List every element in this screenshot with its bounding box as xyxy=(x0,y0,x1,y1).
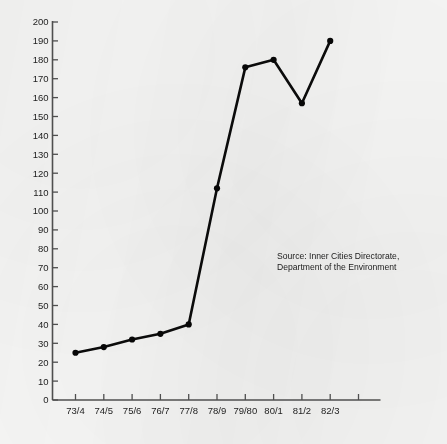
data-point xyxy=(214,185,220,191)
x-axis: 73/474/575/676/777/878/979/8080/181/282/… xyxy=(53,394,381,416)
data-point xyxy=(242,64,248,70)
y-axis-tick-label: 60 xyxy=(38,281,49,292)
x-axis-tick-label: 79/80 xyxy=(233,405,257,416)
y-axis-tick-label: 20 xyxy=(38,357,49,368)
y-axis-tick-label: 40 xyxy=(38,319,49,330)
data-point xyxy=(271,57,277,63)
line-chart: 0102030405060708090100110120130140150160… xyxy=(0,0,447,444)
y-axis-tick-label: 110 xyxy=(33,187,48,198)
y-axis-tick-label: 10 xyxy=(38,376,49,387)
y-axis-tick-label: 160 xyxy=(33,92,49,103)
source-credit-annotation: Source: Inner Cities Directorate, Depart… xyxy=(277,251,399,274)
y-axis-tick-label: 0 xyxy=(43,394,48,405)
data-point xyxy=(186,321,192,327)
data-point xyxy=(129,336,135,342)
y-axis-tick-label: 120 xyxy=(33,168,49,179)
data-point-group xyxy=(72,38,333,356)
y-axis-tick-label: 30 xyxy=(38,338,49,349)
y-axis-tick-label: 70 xyxy=(38,262,49,273)
x-axis-tick-label: 77/8 xyxy=(179,405,198,416)
x-axis-tick-label: 73/4 xyxy=(66,405,85,416)
x-axis-tick-label: 81/2 xyxy=(293,405,312,416)
x-axis-tick-label: 74/5 xyxy=(95,405,114,416)
data-point xyxy=(299,100,305,106)
data-point xyxy=(101,344,107,350)
x-axis-tick-label: 78/9 xyxy=(208,405,227,416)
y-axis-tick-label: 140 xyxy=(33,130,49,141)
x-axis-tick-label: 82/3 xyxy=(321,405,340,416)
y-axis: 0102030405060708090100110120130140150160… xyxy=(33,16,58,405)
chart-canvas: 0102030405060708090100110120130140150160… xyxy=(0,0,447,444)
y-axis-tick-label: 190 xyxy=(33,35,49,46)
y-axis-tick-label: 80 xyxy=(38,243,49,254)
y-axis-tick-label: 170 xyxy=(33,73,49,84)
y-axis-tick-label: 180 xyxy=(33,54,49,65)
x-axis-tick-label: 80/1 xyxy=(264,405,283,416)
y-axis-tick-label: 50 xyxy=(38,300,49,311)
data-point xyxy=(157,331,163,337)
x-axis-tick-label: 76/7 xyxy=(151,405,170,416)
y-axis-tick-label: 200 xyxy=(33,16,49,27)
y-axis-tick-label: 150 xyxy=(33,111,49,122)
data-point xyxy=(72,350,78,356)
data-point xyxy=(327,38,333,44)
x-axis-tick-label: 75/6 xyxy=(123,405,142,416)
data-line-series-0 xyxy=(76,41,331,353)
y-axis-tick-label: 90 xyxy=(38,224,49,235)
y-axis-tick-label: 130 xyxy=(33,149,49,160)
y-axis-tick-label: 100 xyxy=(33,205,49,216)
